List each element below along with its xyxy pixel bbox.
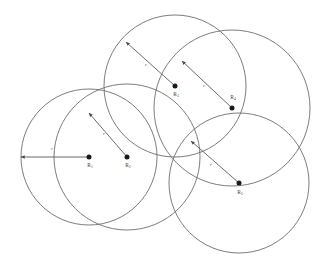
node-label-subscript-5: 5 (241, 192, 243, 196)
radius-label-3: r (145, 62, 147, 67)
node-label-subscript-3: 3 (177, 94, 179, 98)
radius-label-2: r (103, 131, 105, 136)
figure-background (0, 0, 325, 274)
diagram-canvas: rR1rR2rR3rR4rR5 (0, 0, 325, 274)
node-label-subscript-1: 1 (91, 165, 93, 169)
node-label-subscript-4: 4 (234, 97, 236, 101)
center-dot-1 (87, 155, 92, 160)
center-dot-5 (237, 181, 242, 186)
overlapping-circles-figure: rR1rR2rR3rR4rR5 (0, 0, 325, 274)
center-dot-2 (125, 155, 130, 160)
center-dot-4 (230, 106, 235, 111)
center-dot-3 (173, 84, 178, 89)
radius-label-1: r (51, 146, 53, 151)
node-label-subscript-2: 2 (129, 165, 131, 169)
radius-label-4: r (203, 83, 205, 88)
radius-label-5: r (210, 162, 212, 167)
